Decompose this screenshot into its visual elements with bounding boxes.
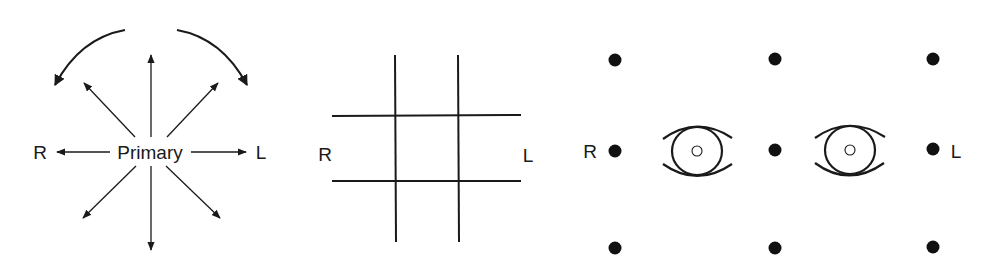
primary-label: Primary xyxy=(117,142,183,163)
rotation-arrow-left xyxy=(55,30,125,85)
pupil-icon xyxy=(692,146,702,156)
nine-positions-panel xyxy=(609,53,940,255)
position-dot-up-right xyxy=(609,54,622,67)
rotation-arrow-right xyxy=(177,30,247,85)
gaze-l-label: L xyxy=(256,142,267,163)
positions-r-label: R xyxy=(583,141,597,162)
arrow-up-left xyxy=(84,83,135,137)
position-dot-down-right xyxy=(609,242,622,255)
grid-panel xyxy=(332,55,521,242)
diagram-canvas: Primary R L R L R L xyxy=(0,0,985,273)
grid-vertical-right xyxy=(458,55,459,242)
position-dot-up-left xyxy=(927,53,940,66)
position-dot-right xyxy=(609,145,622,158)
gaze-directions-panel xyxy=(55,30,247,250)
arrow-down-right xyxy=(166,166,220,218)
gaze-r-label: R xyxy=(33,142,47,163)
arrow-up-right xyxy=(167,83,218,137)
grid-r-label: R xyxy=(318,144,332,165)
eye-icon-left xyxy=(815,126,885,176)
grid-horizontal-top xyxy=(332,115,521,116)
position-dot-down xyxy=(769,242,782,255)
eye-icon-right xyxy=(663,127,732,176)
position-dot-left xyxy=(927,143,940,156)
positions-l-label: L xyxy=(951,141,962,162)
position-dot-down-left xyxy=(927,241,940,254)
position-dot-center xyxy=(769,144,782,157)
pupil-icon xyxy=(845,145,855,155)
arrow-down-left xyxy=(83,166,136,218)
grid-l-label: L xyxy=(523,145,534,166)
position-dot-up xyxy=(769,53,782,66)
grid-vertical-left xyxy=(395,55,396,242)
